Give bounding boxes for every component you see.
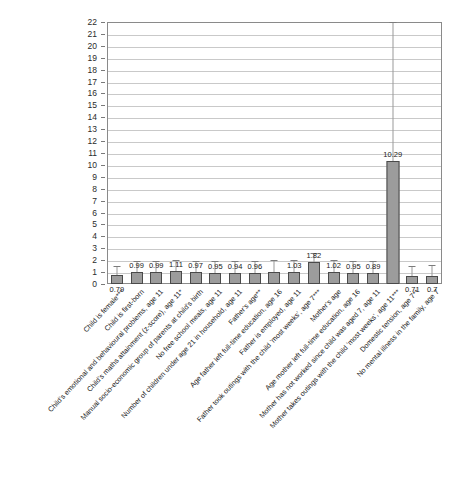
y-axis-tick-mark: [101, 82, 105, 83]
bar-group[interactable]: 0.97: [186, 22, 206, 284]
y-axis-tick-mark: [101, 248, 105, 249]
y-axis-tick-mark: [101, 236, 105, 237]
bar-group[interactable]: 0.71: [403, 22, 423, 284]
bar[interactable]: [249, 273, 261, 284]
bar-value-label: 1.03: [287, 262, 302, 270]
y-axis-tick-mark: [101, 117, 105, 118]
y-axis-tick-label: 6: [92, 209, 97, 217]
y-axis-tick-label: 12: [88, 137, 97, 145]
bar-value-label: 1.11: [169, 261, 183, 269]
error-bar-cap-upper: [429, 265, 436, 266]
bar[interactable]: [190, 272, 202, 284]
error-bar-cap-upper: [389, 22, 396, 23]
y-axis-tick-mark: [101, 129, 105, 130]
bar-value-label: 0.95: [346, 263, 361, 271]
y-axis-tick-label: 18: [88, 66, 97, 74]
bar-value-label: 1.82: [307, 252, 322, 260]
y-axis-tick-mark: [101, 22, 105, 23]
bar-group[interactable]: 1.11: [166, 22, 186, 284]
y-axis-tick-mark: [101, 58, 105, 59]
y-axis-tick-label: 2: [92, 256, 97, 264]
y-axis-tick-label: 17: [88, 78, 97, 86]
y-axis-tick-mark: [101, 93, 105, 94]
error-bar-cap-upper: [271, 260, 278, 261]
bar-value-label: 0.95: [208, 263, 223, 271]
bar-group[interactable]: 0.95: [206, 22, 226, 284]
bar-group[interactable]: 0.89: [363, 22, 383, 284]
bar-value-label: 10.29: [383, 151, 402, 159]
bar[interactable]: [328, 272, 340, 284]
bar-group[interactable]: 1.03: [284, 22, 304, 284]
y-axis-tick-label: 13: [88, 125, 97, 133]
y-axis-tick-label: 21: [88, 30, 97, 38]
error-bar-cap-upper: [113, 266, 120, 267]
y-axis-tick-label: 22: [88, 18, 97, 26]
bar-value-label: 0.89: [366, 263, 381, 271]
y-axis-tick-label: 10: [88, 161, 97, 169]
y-axis-tick-mark: [101, 141, 105, 142]
y-axis-tick-label: 1: [92, 268, 97, 276]
y-axis-tick-mark: [101, 189, 105, 190]
bar[interactable]: [426, 276, 438, 284]
bar-group[interactable]: 0.94: [225, 22, 245, 284]
bar-group[interactable]: 0.7: [422, 22, 442, 284]
bar-group[interactable]: 10.29: [383, 22, 403, 284]
series-layer: 0.790.990.991.110.970.950.940.961.031.82…: [107, 22, 442, 284]
y-axis-tick-label: 11: [88, 149, 97, 157]
bar-value-label: 0.94: [228, 263, 243, 271]
y-axis-tick-label: 19: [88, 54, 97, 62]
bar-value-label: 0.96: [247, 263, 262, 271]
bar-group[interactable]: 0.99: [127, 22, 147, 284]
bar-value-label: 0.97: [188, 262, 203, 270]
bar-value-label: 1.02: [326, 262, 341, 270]
bar[interactable]: [367, 273, 379, 284]
bar[interactable]: [150, 272, 162, 284]
y-axis-tick-mark: [101, 34, 105, 35]
bar-value-label: 0.99: [129, 262, 144, 270]
bar[interactable]: [288, 272, 300, 284]
y-axis-tick-mark: [101, 260, 105, 261]
y-axis-tick-mark: [101, 153, 105, 154]
bar-group[interactable]: 0.96: [245, 22, 265, 284]
bar[interactable]: [229, 273, 241, 284]
y-axis-tick-label: 4: [92, 232, 97, 240]
bar[interactable]: [209, 273, 221, 284]
y-axis-tick-mark: [101, 70, 105, 71]
y-axis-tick-mark: [101, 46, 105, 47]
y-axis-tick-mark: [101, 272, 105, 273]
bar[interactable]: [268, 272, 280, 284]
bar[interactable]: [170, 271, 182, 284]
bar-group[interactable]: 0.79: [107, 22, 127, 284]
y-axis: 222120191817161514131211109876543210: [0, 22, 105, 284]
y-axis-tick-label: 16: [88, 89, 97, 97]
y-axis-tick-mark: [101, 201, 105, 202]
odds-ratio-bar-chart: 222120191817161514131211109876543210 0.7…: [0, 0, 462, 481]
bar[interactable]: [111, 275, 123, 284]
y-axis-tick-mark: [101, 213, 105, 214]
bar[interactable]: [131, 272, 143, 284]
bar-group[interactable]: [265, 22, 285, 284]
y-axis-tick-mark: [101, 105, 105, 106]
bar[interactable]: [386, 161, 399, 284]
y-axis-tick-label: 8: [92, 185, 97, 193]
y-axis-tick-label: 14: [88, 113, 97, 121]
y-axis-tick-mark: [101, 224, 105, 225]
bar-group[interactable]: 0.99: [146, 22, 166, 284]
y-axis-tick-label: 20: [88, 42, 97, 50]
y-axis-tick-label: 9: [92, 173, 97, 181]
y-axis-tick-label: 3: [92, 244, 97, 252]
y-axis-tick-label: 5: [92, 220, 97, 228]
bar-group[interactable]: 0.95: [343, 22, 363, 284]
bar-value-label: 0.99: [149, 262, 164, 270]
y-axis-tick-label: 7: [92, 197, 97, 205]
bar[interactable]: [308, 262, 320, 284]
error-bar-cap-upper: [409, 266, 416, 267]
y-axis-tick-mark: [101, 177, 105, 178]
bar-group[interactable]: 1.02: [324, 22, 344, 284]
y-axis-tick-label: 15: [88, 101, 97, 109]
x-axis-labels: Child is female***Child is first-bornChi…: [0, 284, 462, 481]
bar[interactable]: [406, 276, 418, 284]
bar[interactable]: [347, 273, 359, 284]
bar-group[interactable]: 1.82: [304, 22, 324, 284]
y-axis-tick-mark: [101, 165, 105, 166]
